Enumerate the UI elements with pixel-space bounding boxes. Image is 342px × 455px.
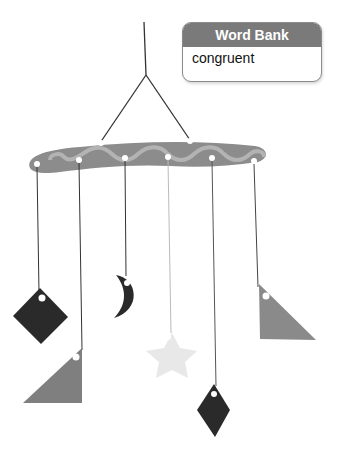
rhombus-shape <box>197 384 230 437</box>
star-shape <box>146 333 197 378</box>
left-triangle-shape <box>23 348 82 403</box>
mobile-bar <box>29 138 266 173</box>
hanger-strings <box>100 22 190 143</box>
square-shape <box>13 288 68 344</box>
right-triangle-shape <box>259 284 316 340</box>
mobile-illustration <box>0 0 342 455</box>
crescent-moon-shape <box>114 275 134 318</box>
